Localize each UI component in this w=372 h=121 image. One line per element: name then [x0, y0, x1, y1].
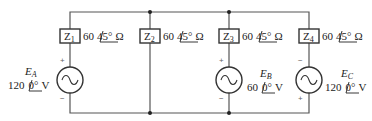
- ec-top-sign: −: [298, 56, 303, 65]
- eb-label: EB 600°V: [247, 67, 283, 93]
- z1-value: 6045°Ω: [83, 30, 124, 42]
- source-ea: [57, 67, 83, 93]
- svg-text:1200°V: 1200°V: [8, 79, 49, 91]
- ec-label: EC 1200°V: [325, 67, 366, 93]
- wires: [70, 12, 309, 113]
- source-ec: [296, 67, 322, 93]
- ec-bottom-sign: +: [298, 94, 303, 103]
- svg-text:6045°Ω: 6045°Ω: [242, 30, 283, 42]
- z4-value: 6045°Ω: [322, 30, 363, 42]
- ea-label: EA 1200°V: [8, 65, 49, 91]
- svg-text:6045°Ω: 6045°Ω: [322, 30, 363, 42]
- svg-text:6045°Ω: 6045°Ω: [83, 30, 124, 42]
- svg-text:EB: EB: [259, 67, 272, 81]
- eb-top-sign: +: [219, 56, 224, 65]
- z2-value: 6045°Ω: [163, 30, 204, 42]
- svg-text:1200°V: 1200°V: [325, 81, 366, 93]
- ea-top-sign: +: [60, 56, 65, 65]
- source-eb: [216, 67, 242, 93]
- ea-bottom-sign: −: [60, 94, 65, 103]
- svg-text:EC: EC: [340, 67, 354, 81]
- z3-value: 6045°Ω: [242, 30, 283, 42]
- svg-text:6045°Ω: 6045°Ω: [163, 30, 204, 42]
- eb-bottom-sign: −: [219, 94, 224, 103]
- svg-text:EA: EA: [24, 65, 37, 79]
- circuit-diagram: Z1 Z2 Z3 Z4 6045°Ω 6045°Ω 6045°Ω 6045°Ω …: [0, 0, 372, 121]
